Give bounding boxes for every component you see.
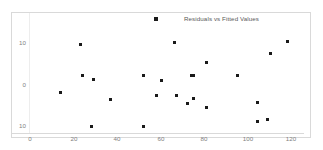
scatter-point — [205, 106, 208, 109]
x-tick-label: 100 — [238, 136, 258, 142]
x-tick-label: 60 — [151, 136, 171, 142]
x-tick-label: 20 — [64, 136, 84, 142]
scatter-point — [160, 79, 163, 82]
scatter-point — [142, 125, 145, 128]
scatter-point — [286, 40, 289, 43]
scatter-point — [192, 74, 195, 77]
scatter-point — [109, 98, 112, 101]
scatter-point — [79, 43, 82, 46]
scatter-point — [142, 74, 145, 77]
scatter-point — [186, 102, 189, 105]
scatter-point — [173, 41, 176, 44]
scatter-point — [256, 101, 259, 104]
scatter-point — [266, 118, 269, 121]
scatter-point — [92, 78, 95, 81]
x-tick-label: 80 — [194, 136, 214, 142]
x-tick-label: 0 — [20, 136, 40, 142]
scatter-point — [236, 74, 239, 77]
scatter-point — [59, 91, 62, 94]
x-tick-label: 40 — [107, 136, 127, 142]
scatter-point — [269, 52, 272, 55]
scatter-point — [81, 74, 84, 77]
scatter-point — [205, 61, 208, 64]
scatter-chart: Residuals vs Fitted Values 10 0 10 0 20 … — [0, 0, 323, 150]
scatter-point — [90, 125, 93, 128]
scatter-plot-area — [30, 18, 293, 128]
scatter-point — [192, 97, 195, 100]
x-tick-label: 120 — [281, 136, 301, 142]
scatter-point — [256, 120, 259, 123]
scatter-point — [175, 94, 178, 97]
scatter-point — [155, 94, 158, 97]
